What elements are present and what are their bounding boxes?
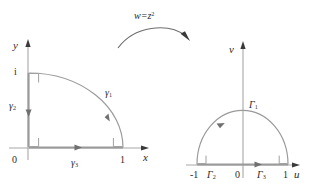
curve-label-Gamma-2-sub: 2 <box>213 173 216 180</box>
conformal-mapping-figure: w=z2 y x i 0 1 γ1 γ2 γ3 v u -1 0 1 Γ1 Γ2… <box>0 0 310 190</box>
curve-gamma-2-direction-arrow <box>26 110 32 118</box>
right-v-axis-label: v <box>229 44 234 55</box>
curve-label-Gamma-1-sub: 1 <box>255 103 258 110</box>
right-angle-mark-at-origin-left <box>30 138 39 147</box>
curve-gamma-1-direction-arrow <box>105 114 110 122</box>
right-angle-mark-at-one <box>113 138 122 147</box>
curve-label-Gamma-1: Γ1 <box>249 100 258 111</box>
left-plane-group <box>9 39 149 160</box>
right-tick-one: 1 <box>283 170 288 180</box>
curve-Gamma-1-direction-arrow <box>217 123 225 128</box>
curve-label-Gamma-3-sub: 3 <box>263 173 266 180</box>
curve-label-gamma-2-sub: 2 <box>13 104 16 111</box>
left-y-axis-label: y <box>13 40 18 51</box>
left-tick-origin: 0 <box>12 155 17 165</box>
right-angle-mark-at-i <box>30 74 39 83</box>
left-y-axis-arrowhead <box>25 39 30 47</box>
mapping-arrow-group <box>118 28 190 48</box>
curve-label-Gamma-3: Γ3 <box>257 170 266 181</box>
curve-label-gamma-3-sub: 3 <box>75 161 78 168</box>
curve-gamma-3-direction-arrow <box>75 144 83 150</box>
mapping-arrow-curve <box>118 28 186 48</box>
right-tick-origin: 0 <box>235 170 240 180</box>
curve-gamma-1-arc <box>29 73 123 147</box>
curve-label-gamma-1: γ1 <box>105 88 112 99</box>
left-tick-one: 1 <box>120 155 125 165</box>
right-v-axis-arrowhead <box>240 41 245 49</box>
left-x-axis-label: x <box>143 152 148 163</box>
right-tick-minus-one: -1 <box>190 170 198 180</box>
right-u-axis-label: u <box>294 169 300 180</box>
curve-label-gamma-1-sub: 1 <box>109 91 112 98</box>
right-u-axis-arrowhead <box>292 162 300 167</box>
right-plane-group <box>186 41 300 178</box>
mapping-label-w: w <box>134 10 141 21</box>
curve-label-Gamma-2: Γ2 <box>207 170 216 181</box>
mapping-label-exponent: 2 <box>151 10 154 17</box>
right-angle-mark-at-minus-one <box>198 156 206 164</box>
curve-label-gamma-3: γ3 <box>71 158 78 169</box>
figure-canvas <box>0 0 310 190</box>
curve-label-gamma-2: γ2 <box>9 101 16 112</box>
left-tick-i: i <box>14 67 17 77</box>
mapping-label: w=z2 <box>134 11 154 21</box>
curve-Gamma-3-direction-arrow <box>255 161 263 167</box>
left-x-axis-arrowhead <box>141 145 149 150</box>
right-angle-mark-at-one-right <box>279 156 287 164</box>
